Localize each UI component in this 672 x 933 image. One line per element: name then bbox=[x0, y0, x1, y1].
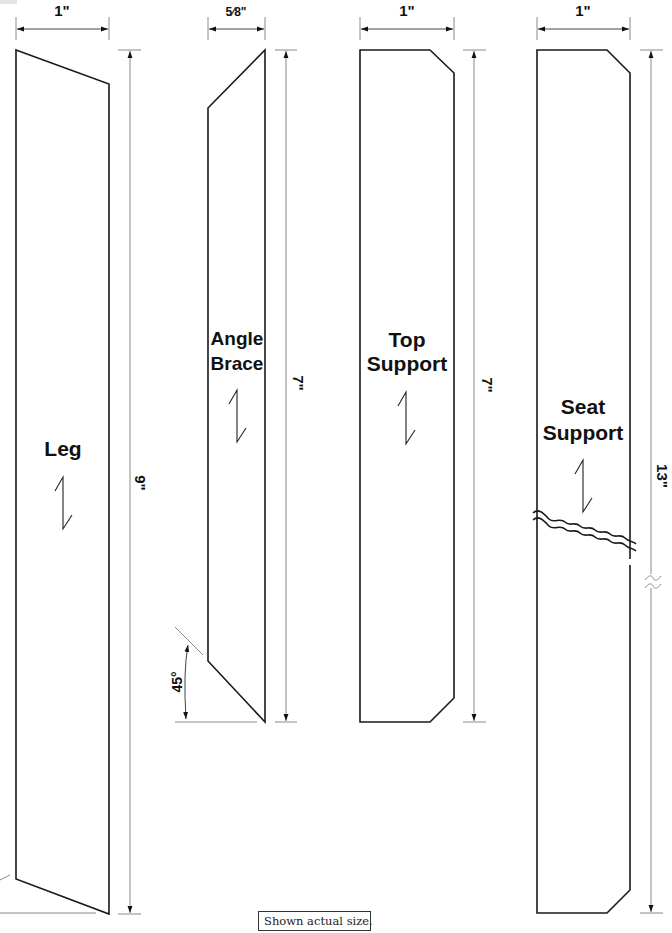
brace-label-line1: Angle bbox=[211, 328, 264, 349]
seat-support-label-line1: Seat bbox=[561, 395, 605, 418]
grain-direction-icon bbox=[229, 390, 246, 442]
leg-width-label: 1" bbox=[54, 2, 69, 19]
break-line-upper bbox=[533, 511, 636, 544]
pattern-drawing: 1" 9" Leg 5⁄8" 7" 45° Angle Brace bbox=[0, 0, 672, 933]
break-gap bbox=[628, 559, 633, 565]
leg-angle-reference-line bbox=[0, 875, 10, 880]
part-seat-support: 1" 13" Seat Support bbox=[533, 2, 671, 913]
grain-direction-icon bbox=[575, 460, 592, 512]
angle-label: 45° bbox=[169, 671, 185, 692]
brace-width-label: 5⁄8" bbox=[225, 5, 246, 19]
angle-arc bbox=[185, 645, 188, 719]
seat-width-label: 1" bbox=[575, 2, 590, 19]
dimension-break-mark-upper bbox=[645, 576, 661, 580]
dimension-break-mark-lower bbox=[645, 584, 661, 588]
leg-label: Leg bbox=[44, 437, 81, 460]
scale-note: Shown actual size. bbox=[258, 911, 371, 931]
top-support-outline bbox=[360, 50, 454, 722]
brace-length-label: 7" bbox=[290, 375, 307, 390]
leg-length-label: 9" bbox=[132, 475, 149, 490]
seat-support-label-line2: Support bbox=[543, 421, 623, 444]
part-leg: 1" 9" Leg bbox=[0, 2, 149, 914]
angle-extension-line bbox=[175, 627, 203, 655]
top-support-label-line2: Support bbox=[367, 352, 447, 375]
top-width-label: 1" bbox=[399, 2, 414, 19]
part-angle-brace: 5⁄8" 7" 45° Angle Brace bbox=[169, 5, 307, 722]
top-support-label-line1: Top bbox=[389, 328, 426, 351]
grain-direction-icon bbox=[55, 477, 72, 529]
brace-label-line2: Brace bbox=[211, 353, 264, 374]
brace-outline bbox=[208, 50, 265, 722]
part-top-support: 1" 7" Top Support bbox=[360, 2, 496, 722]
seat-length-label: 13" bbox=[654, 464, 671, 488]
top-length-label: 7" bbox=[479, 377, 496, 392]
break-line-lower bbox=[533, 518, 636, 551]
grain-direction-icon bbox=[398, 392, 415, 444]
